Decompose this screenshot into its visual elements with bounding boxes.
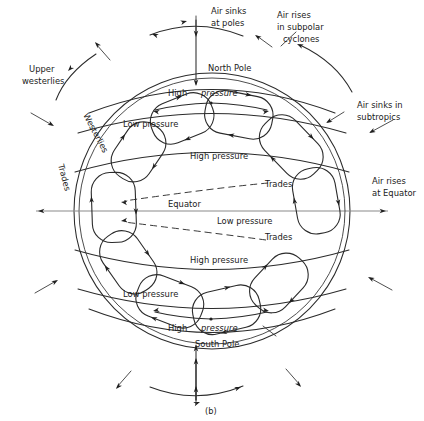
label-north-subpolar-low: Low pressure [123,119,178,129]
label-north-pole: North Pole [208,63,251,73]
atmospheric-circulation-figure: Air sinks at poles Air rises in subpolar… [0,0,424,421]
label-south-polar-high: High pressure [168,323,238,333]
label-trades-north: Trades [264,179,292,189]
cell-label-trades: Trades [56,162,73,192]
label-trades-south: Trades [264,232,292,242]
label-north-polar-high: High pressure [168,88,238,98]
south-high-word: High [168,323,187,333]
air-rises-subpolar-line3: cyclones [283,34,319,44]
air-rises-subpolar-line2: in subpolar [277,22,324,32]
label-south-subtropical-high: High pressure [190,255,248,265]
air-rises-equator-line1: Air rises [372,176,406,186]
label-air-sinks-subtropics: Air sinks in subtropics [357,100,403,122]
air-sinks-subtropics-line1: Air sinks in [357,100,403,110]
air-sinks-line1: Air sinks [211,6,246,16]
north-pressure-word: pressure [200,88,238,98]
label-air-sinks-at-poles: Air sinks at poles [211,6,246,28]
air-sinks-subtropics-line2: subtropics [357,112,400,122]
label-north-subtropical-high: High pressure [190,151,248,161]
label-upper-westerlies: Upper westerlies [22,64,64,86]
south-pressure-word: pressure [200,323,238,333]
air-rises-equator-line2: at Equator [372,188,417,198]
upper-westerlies-line2: westerlies [22,76,64,86]
upper-westerlies-line1: Upper [29,64,55,74]
label-equatorial-low: Low pressure [217,216,272,226]
air-sinks-line2: at poles [211,18,244,28]
air-rises-subpolar-line1: Air rises [277,10,311,20]
label-air-rises-equator: Air rises at Equator [372,176,417,198]
label-equator: Equator [168,199,201,209]
south-pole-convergence [153,307,270,320]
label-air-rises-subpolar: Air rises in subpolar cyclones [277,10,324,44]
label-south-pole: South Pole [195,339,239,349]
label-south-subpolar-low: Low pressure [123,289,178,299]
equator-line-group [36,209,388,214]
figure-caption: (b) [205,406,217,416]
cell-label-westerlies: Westerlies [81,111,110,154]
north-high-word: High [168,88,187,98]
